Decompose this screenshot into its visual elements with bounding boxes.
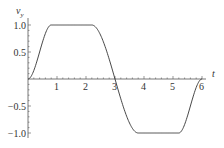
y-tick-label: −0.5	[8, 101, 26, 112]
x-axis-label: t	[212, 68, 215, 79]
chart: 123456 1.00.5−0.5−1.0 t vy	[0, 0, 224, 148]
x-tick-label: 6	[199, 81, 204, 92]
x-ticks: 123456	[34, 76, 204, 92]
y-tick-label: 0.5	[14, 47, 27, 58]
y-ticks: 1.00.5−0.5−1.0	[8, 20, 31, 139]
x-tick-label: 1	[54, 81, 59, 92]
x-tick-label: 2	[83, 81, 88, 92]
y-axis-label-sub: y	[19, 11, 24, 19]
x-tick-label: 5	[170, 81, 175, 92]
x-tick-label: 4	[141, 81, 146, 92]
y-tick-label: −1.0	[8, 128, 26, 139]
y-axis-label: vy	[16, 5, 24, 19]
y-tick-label: 1.0	[14, 20, 27, 31]
